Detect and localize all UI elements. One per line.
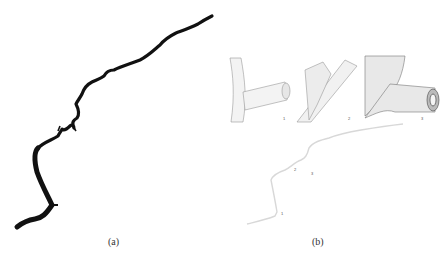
inset-1-mesh: [230, 58, 290, 122]
overview-vessel: [247, 124, 403, 224]
vessel-centerline: [0, 0, 225, 261]
panel-b: 1 2 3 1 2 3 (b): [225, 0, 446, 261]
inset-3-mesh: [365, 56, 439, 118]
inset-3-label: 3: [421, 116, 423, 121]
mesh-insets: [225, 0, 446, 261]
inset-2-label: 2: [348, 116, 350, 121]
caption-b: (b): [312, 236, 324, 247]
panel-a: (a): [0, 0, 225, 261]
inset-2-mesh: [297, 60, 357, 122]
overview-marker-2: 2: [294, 167, 296, 172]
inset-1-label: 1: [283, 116, 285, 121]
overview-marker-3: 3: [311, 171, 313, 176]
overview-marker-1: 1: [281, 211, 283, 216]
caption-a: (a): [108, 236, 119, 247]
